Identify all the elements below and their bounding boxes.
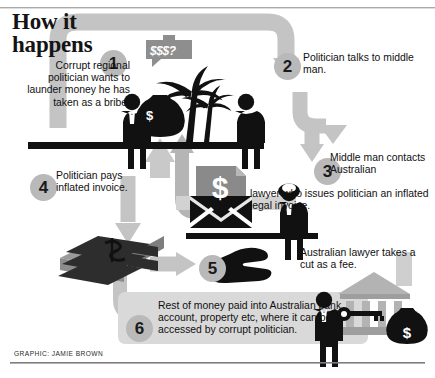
step-number-5: 5 xyxy=(199,255,226,282)
envelope-invoice-icon: $ xyxy=(190,166,252,228)
step-caption-3-part1: Middle man contacts Australian xyxy=(330,152,434,176)
step-number-4: 4 xyxy=(30,174,57,201)
middle-man-figure-icon xyxy=(235,94,265,169)
step-caption-1: Corrupt regional politician wants to lau… xyxy=(18,60,130,109)
svg-text:$: $ xyxy=(212,171,229,204)
graphic-credit: GRAPHIC: JAMIE BROWN xyxy=(14,350,103,357)
money-bag-icon xyxy=(135,95,185,137)
step-caption-2: Politician talks to middle man. xyxy=(303,52,425,76)
step-caption-6: Rest of money paid into Australian bank … xyxy=(158,300,354,337)
infographic-root: $ xyxy=(0,0,435,378)
vault-money-bag-icon: $ xyxy=(386,308,428,344)
step-number-2: 2 xyxy=(274,53,301,80)
page-title-line1: How it xyxy=(12,9,77,34)
step-caption-4: Politician pays inflated invoice. xyxy=(56,170,128,194)
step-caption-5: Australian lawyer takes a cut as a fee. xyxy=(300,247,430,271)
step-number-6: 6 xyxy=(126,315,153,342)
speech-bubble-label: $$$? xyxy=(150,44,176,58)
page-title-line2: happens xyxy=(12,32,92,57)
step-caption-3-part2: lawyer who issues politician an inflated… xyxy=(250,188,434,212)
money-bag-symbol: $ xyxy=(146,108,153,123)
cash-stack-icon xyxy=(58,236,164,285)
page-title: How it happens xyxy=(12,10,142,57)
svg-text:$: $ xyxy=(403,324,412,341)
